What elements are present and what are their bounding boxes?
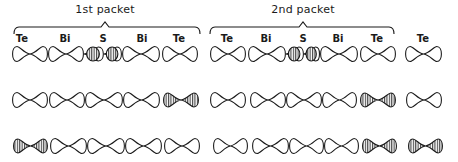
- p-orbital: [249, 47, 286, 62]
- p-orbital: [165, 139, 200, 154]
- bonding-diagram: 1st packet2nd packet TeBiSBiTeTeBiSBiTeT…: [0, 0, 458, 162]
- packet-title: 1st packet: [75, 3, 134, 16]
- element-label: S: [299, 33, 306, 44]
- element-label: Te: [173, 33, 185, 44]
- hatched-p-orbital: [361, 93, 396, 107]
- hatched-p-orbital: [14, 139, 48, 153]
- p-orbital: [323, 93, 357, 108]
- hatched-p-orbital: [409, 139, 443, 153]
- element-label: Bi: [136, 33, 147, 44]
- element-label: Te: [221, 33, 233, 44]
- orbital-rows: [13, 47, 443, 154]
- p-orbital: [88, 139, 125, 154]
- element-label: Te: [371, 33, 383, 44]
- p-orbital: [361, 47, 396, 62]
- element-label: Bi: [260, 33, 271, 44]
- p-orbital: [406, 47, 442, 62]
- hatched-p-orbital: [104, 47, 121, 61]
- p-orbital: [86, 93, 123, 108]
- hatched-p-orbital: [304, 47, 319, 61]
- p-orbital: [211, 93, 246, 108]
- p-orbital: [287, 93, 322, 108]
- p-orbital: [123, 47, 160, 62]
- p-orbital: [211, 47, 246, 62]
- p-orbital: [126, 139, 162, 154]
- p-orbital: [51, 139, 87, 154]
- p-orbital: [251, 93, 286, 108]
- p-orbital: [163, 47, 198, 62]
- p-orbital: [13, 47, 48, 62]
- p-orbital: [321, 47, 358, 62]
- p-orbital: [407, 93, 442, 108]
- p-orbital: [214, 139, 248, 154]
- packet-title: 2nd packet: [271, 3, 334, 16]
- p-orbital: [325, 139, 359, 154]
- p-orbital: [253, 139, 289, 154]
- orbital-row: [13, 93, 442, 108]
- p-orbital: [50, 93, 85, 108]
- p-orbital: [124, 93, 160, 108]
- element-label: Bi: [59, 33, 70, 44]
- p-orbital: [290, 139, 324, 154]
- hatched-p-orbital: [286, 47, 303, 61]
- orbital-row: [13, 47, 442, 62]
- orbital-row: [14, 139, 443, 154]
- orbital-chains: [0, 0, 458, 162]
- p-orbital: [49, 47, 84, 62]
- p-orbital: [13, 93, 48, 108]
- element-label: Te: [417, 33, 429, 44]
- element-label: Bi: [332, 33, 343, 44]
- hatched-p-orbital: [363, 139, 397, 153]
- element-label: S: [99, 33, 106, 44]
- hatched-p-orbital: [164, 93, 199, 107]
- element-label: Te: [16, 33, 28, 44]
- hatched-p-orbital: [84, 47, 103, 61]
